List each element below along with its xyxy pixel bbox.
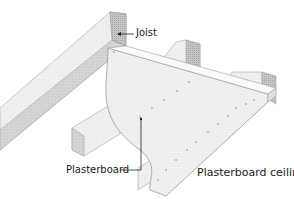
plasterboard-ceiling-diagram: Joist Plasterboard Plasterboard ceiling (0, 0, 294, 199)
label-plasterboard-ceiling: Plasterboard ceiling (197, 167, 294, 178)
label-joist: Joist (136, 28, 157, 38)
label-plasterboard: Plasterboard (66, 165, 129, 175)
